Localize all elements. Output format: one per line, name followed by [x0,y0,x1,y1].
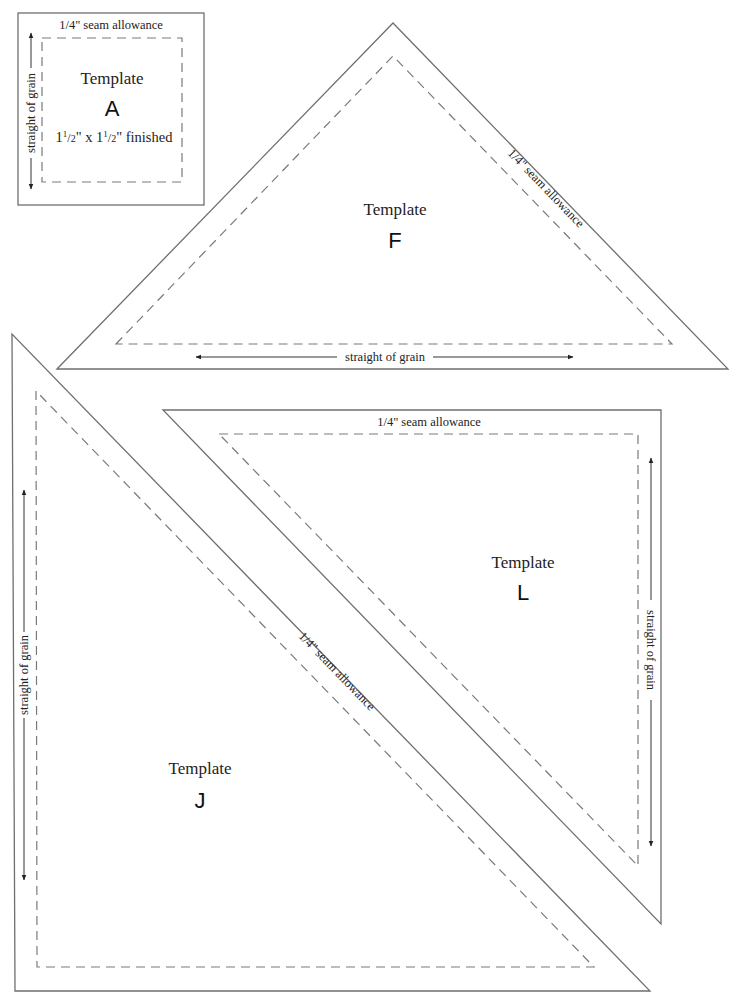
template-j-letter: J [195,788,206,813]
template-f-grain-label: straight of grain [345,350,426,364]
template-f-cut-line [57,23,728,369]
template-f-letter: F [388,228,401,253]
template-a-grain-arrow: straight of grain [24,33,38,189]
template-j: 1/4" seam allowance straight of grain Te… [12,334,650,991]
template-l-grain-arrow: straight of grain [644,458,658,846]
template-f-title: Template [363,200,426,219]
template-l-seam-label: 1/4" seam allowance [377,415,481,429]
template-l-title: Template [491,553,554,572]
template-a-finished-size: 11/2" x 11/2" finished [56,129,174,145]
template-j-title: Template [168,759,231,778]
template-a-title: Template [80,69,143,88]
template-j-sew-line [36,391,594,967]
template-l-letter: L [517,580,529,605]
template-a-seam-label: 1/4" seam allowance [59,18,163,32]
template-a-letter: A [105,96,120,121]
template-l: 1/4" seam allowance straight of grain Te… [163,410,661,924]
template-a-grain-label: straight of grain [24,72,38,153]
template-l-cut-line [163,410,661,924]
template-a: 1/4" seam allowance straight of grain Te… [18,13,204,205]
template-f-grain-arrow: straight of grain [196,350,573,364]
template-j-grain-arrow: straight of grain [17,490,31,880]
template-f-seam-label: 1/4" seam allowance [505,146,587,231]
template-sheet: 1/4" seam allowance straight of grain Te… [0,0,735,1000]
template-f: 1/4" seam allowance straight of grain Te… [57,23,728,369]
template-l-grain-label: straight of grain [644,610,658,691]
template-l-sew-line [219,434,638,866]
template-j-grain-label: straight of grain [17,634,31,715]
